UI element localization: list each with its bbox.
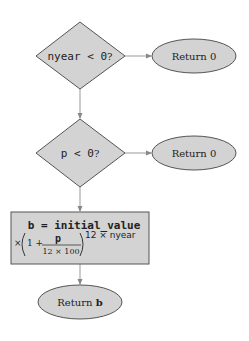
one-plus: 1 + [27,238,43,248]
exponent: 12 × nyear [85,230,136,240]
decision-p: p < 0? [36,119,125,187]
process-compute-b: b = initial_value × 1 + p 12 × 100 12 × … [11,212,149,264]
decision-p-code: p < 0 [61,147,94,160]
terminal-return-0-second: Return 0 [152,136,236,170]
fraction-denominator: 12 × 100 [42,247,79,256]
decision-nyear: nyear < 0? [36,22,125,89]
terminal-label: Return 0 [172,51,217,62]
terminal-label: Return 0 [172,148,217,159]
flowchart: nyear < 0? Return 0 p < 0? Return 0 b = … [0,0,249,341]
svg-text:nyear < 0?: nyear < 0? [48,50,113,63]
terminal-label-prefix: Return [57,297,95,308]
svg-text:p < 0?: p < 0? [61,147,100,160]
terminal-label-bold: b [96,297,103,308]
terminal-return-b: Return b [38,285,122,319]
fraction-numerator: p [55,233,61,244]
svg-text:Return b: Return b [57,297,102,308]
terminal-return-0-first: Return 0 [152,39,236,73]
times-symbol: × [14,238,22,248]
decision-nyear-code: nyear < 0 [48,50,108,63]
